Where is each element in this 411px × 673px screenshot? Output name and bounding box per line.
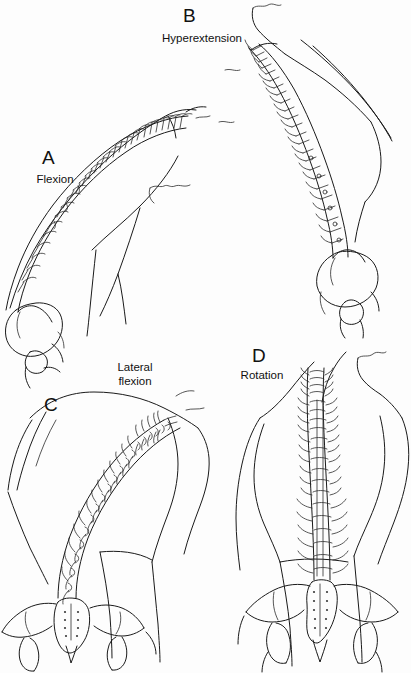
panel-d-artwork xyxy=(230,340,411,673)
panel-c-letter: C xyxy=(44,395,58,414)
panel-a-flexion: A Flexion xyxy=(0,60,215,340)
panel-b-letter: B xyxy=(183,6,196,25)
panel-c-lateral-flexion: C Lateral flexion xyxy=(0,340,230,673)
panel-d-rotation: D Rotation xyxy=(230,340,411,673)
panel-c-artwork xyxy=(0,340,230,673)
spinal-movements-figure: A Flexion xyxy=(0,0,411,673)
panel-b-caption: Hyperextension xyxy=(146,32,258,46)
panel-c-caption: Lateral flexion xyxy=(104,361,166,388)
panel-d-caption: Rotation xyxy=(228,369,296,383)
panel-a-caption: Flexion xyxy=(20,173,90,187)
panel-b-artwork xyxy=(215,0,411,340)
panel-a-artwork xyxy=(0,60,215,340)
panel-d-letter: D xyxy=(252,346,266,365)
panel-b-hyperextension: B Hyperextension xyxy=(215,0,411,340)
panel-a-letter: A xyxy=(42,148,55,167)
